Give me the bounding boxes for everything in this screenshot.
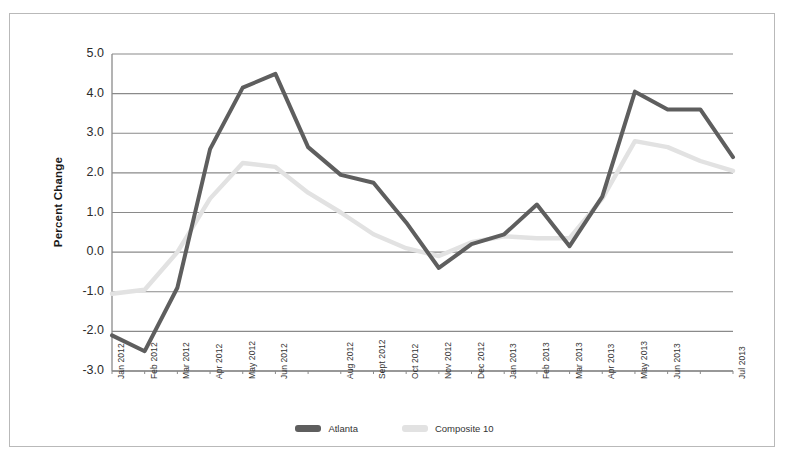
legend-swatch-icon (295, 425, 321, 432)
x-tick-label: May 2012 (247, 341, 257, 379)
chart-legend: AtlantaComposite 10 (0, 423, 789, 434)
x-axis-tick-labels: Jan 2012Feb 2012Mar 2012Apr 2012May 2012… (0, 0, 789, 462)
chart-page: Percent Change 5.04.03.02.01.00.0-1.0-2.… (0, 0, 789, 462)
x-tick-label: Feb 2013 (541, 342, 551, 379)
x-tick-label: Jul 2013 (737, 346, 747, 379)
x-tick-label: Mar 2012 (181, 342, 191, 379)
x-tick-label: Nov 2012 (443, 342, 453, 379)
legend-label: Atlanta (328, 423, 358, 434)
x-tick-label: May 2013 (639, 341, 649, 379)
x-tick-label: Jan 2013 (508, 343, 518, 379)
x-tick-label: Dec 2012 (476, 342, 486, 379)
x-tick-label: Jun 2013 (672, 343, 682, 379)
legend-item[interactable]: Atlanta (295, 423, 358, 434)
x-tick-label: Feb 2012 (149, 342, 159, 379)
x-tick-label: Mar 2013 (574, 342, 584, 379)
legend-label: Composite 10 (435, 423, 494, 434)
x-tick-label: Jun 2012 (279, 343, 289, 379)
line-chart: Percent Change 5.04.03.02.01.00.0-1.0-2.… (0, 0, 789, 462)
x-tick-label: Aug 2012 (345, 342, 355, 379)
x-tick-label: Apr 2013 (606, 344, 616, 379)
x-tick-label: Sept 2012 (377, 339, 387, 379)
x-tick-label: Jan 2012 (116, 343, 126, 379)
x-tick-label: Apr 2012 (214, 344, 224, 379)
legend-item[interactable]: Composite 10 (402, 423, 494, 434)
x-tick-label: Oct 2012 (410, 344, 420, 379)
legend-swatch-icon (402, 425, 428, 432)
